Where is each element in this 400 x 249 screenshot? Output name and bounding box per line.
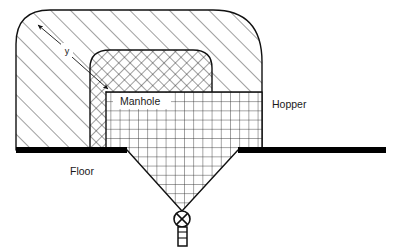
diagram-canvas: y Manhole Hopper Floor (0, 0, 400, 249)
floor-label: Floor (70, 165, 94, 177)
discharge-pipe (178, 227, 187, 246)
outlet-pipe-icon (178, 227, 187, 246)
manhole-label: Manhole (120, 95, 160, 107)
discharge-valve (174, 211, 190, 227)
floor-slab-right (238, 147, 386, 153)
hopper-cross-section-diagram: y Manhole Hopper Floor (0, 0, 400, 249)
floor-slab-left (16, 147, 127, 153)
dimension-y-label: y (65, 46, 70, 56)
hopper-label: Hopper (272, 98, 307, 110)
